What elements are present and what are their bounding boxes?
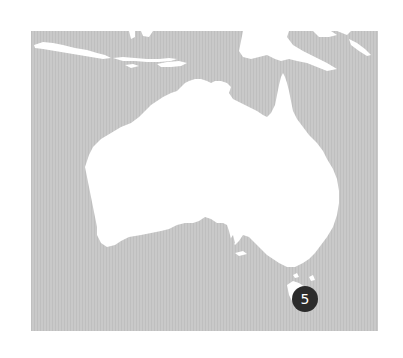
marker-label: 5 [301,292,310,306]
map-marker-5[interactable]: 5 [292,286,318,312]
map-frame [31,31,378,331]
australia-map [31,31,378,331]
